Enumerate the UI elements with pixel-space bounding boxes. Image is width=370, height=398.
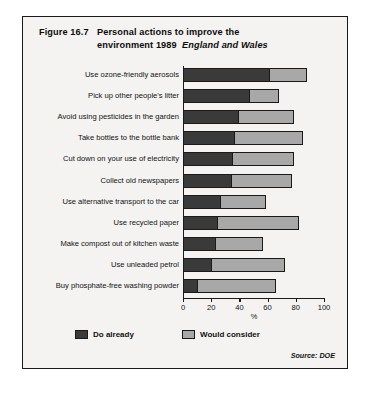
bar-segment-do-already [183, 110, 238, 124]
bar-row [183, 237, 263, 251]
legend-swatch-would-consider [182, 330, 195, 339]
bar-row [183, 110, 294, 124]
category-label: Buy phosphate-free washing powder [56, 279, 179, 293]
bar-segment-would-consider [269, 68, 307, 82]
figure-title-line-1: Figure 16.7Personal actions to improve t… [39, 26, 339, 39]
bar-segment-do-already [183, 195, 220, 209]
bar-segment-do-already [183, 152, 232, 166]
figure-title-block: Figure 16.7Personal actions to improve t… [39, 26, 339, 51]
x-axis-tick-label: 100 [318, 303, 331, 312]
source-note: Source: DOE [291, 351, 335, 360]
bar-segment-would-consider [238, 110, 294, 124]
bar-segment-would-consider [215, 237, 263, 251]
bar-segment-would-consider [231, 174, 292, 188]
bar-row [183, 174, 292, 188]
bar-row [183, 131, 303, 145]
category-labels: Use ozone-friendly aerosolsPick up other… [31, 66, 179, 298]
bar-row [183, 68, 307, 82]
category-label: Pick up other people's litter [88, 89, 179, 103]
bar-segment-would-consider [249, 89, 279, 103]
bar-segment-do-already [183, 237, 215, 251]
bar-segment-would-consider [217, 216, 299, 230]
bar-row [183, 195, 266, 209]
bar-segment-do-already [183, 258, 211, 272]
figure-panel: Figure 16.7Personal actions to improve t… [22, 16, 348, 369]
x-axis-tick [268, 298, 269, 302]
bar-row [183, 152, 294, 166]
category-label: Use ozone-friendly aerosols [85, 68, 179, 82]
bar-segment-do-already [183, 279, 197, 293]
plot-area [183, 66, 324, 298]
x-axis-tick [211, 298, 212, 302]
x-axis-line [183, 298, 324, 299]
bar-segment-would-consider [220, 195, 267, 209]
x-axis-tick-label: 40 [235, 303, 243, 312]
bar-row [183, 216, 299, 230]
category-label: Use recycled paper [114, 216, 179, 230]
category-label: Collect old newspapers [100, 174, 179, 188]
category-label: Make compost out of kitchen waste [60, 237, 179, 251]
figure-title-text-2: environment 1989 [97, 40, 177, 50]
x-axis-tick [296, 298, 297, 302]
figure-title-line-2: environment 1989 England and Wales [39, 39, 339, 52]
bar-segment-do-already [183, 68, 269, 82]
legend-label-would-consider: Would consider [200, 330, 260, 339]
bar-segment-do-already [183, 174, 231, 188]
bar-segment-would-consider [234, 131, 303, 145]
x-axis-tick-label: 60 [263, 303, 271, 312]
x-axis-tick [183, 298, 184, 302]
x-axis-title: % [251, 312, 258, 321]
figure-title-text-1: Personal actions to improve the [97, 27, 239, 37]
x-axis-tick [239, 298, 240, 302]
x-axis-tick-label: 20 [207, 303, 215, 312]
category-label: Use unleaded petrol [111, 258, 179, 272]
chart-legend: Do already Would consider [75, 330, 325, 344]
figure-title-region: England and Wales [182, 40, 268, 50]
bar-segment-do-already [183, 89, 249, 103]
x-axis-tick [324, 298, 325, 302]
bar-segment-do-already [183, 131, 234, 145]
legend-item-do-already: Do already [75, 330, 134, 339]
bar-row [183, 279, 276, 293]
category-label: Take bottles to the bottle bank [78, 131, 179, 145]
bar-segment-do-already [183, 216, 217, 230]
x-axis: % 020406080100 [183, 298, 325, 322]
category-label: Avoid using pesticides in the garden [58, 110, 179, 124]
bar-segment-would-consider [232, 152, 294, 166]
legend-item-would-consider: Would consider [182, 330, 260, 339]
legend-swatch-do-already [75, 330, 88, 339]
category-label: Use alternative transport to the car [63, 195, 180, 209]
category-label: Cut down on your use of electricity [63, 152, 179, 166]
x-axis-tick-label: 80 [292, 303, 300, 312]
legend-label-do-already: Do already [93, 330, 134, 339]
x-axis-tick-label: 0 [181, 303, 185, 312]
bar-row [183, 258, 285, 272]
bar-row [183, 89, 279, 103]
bar-segment-would-consider [211, 258, 284, 272]
figure-number: Figure 16.7 [39, 26, 97, 39]
bar-segment-would-consider [197, 279, 276, 293]
